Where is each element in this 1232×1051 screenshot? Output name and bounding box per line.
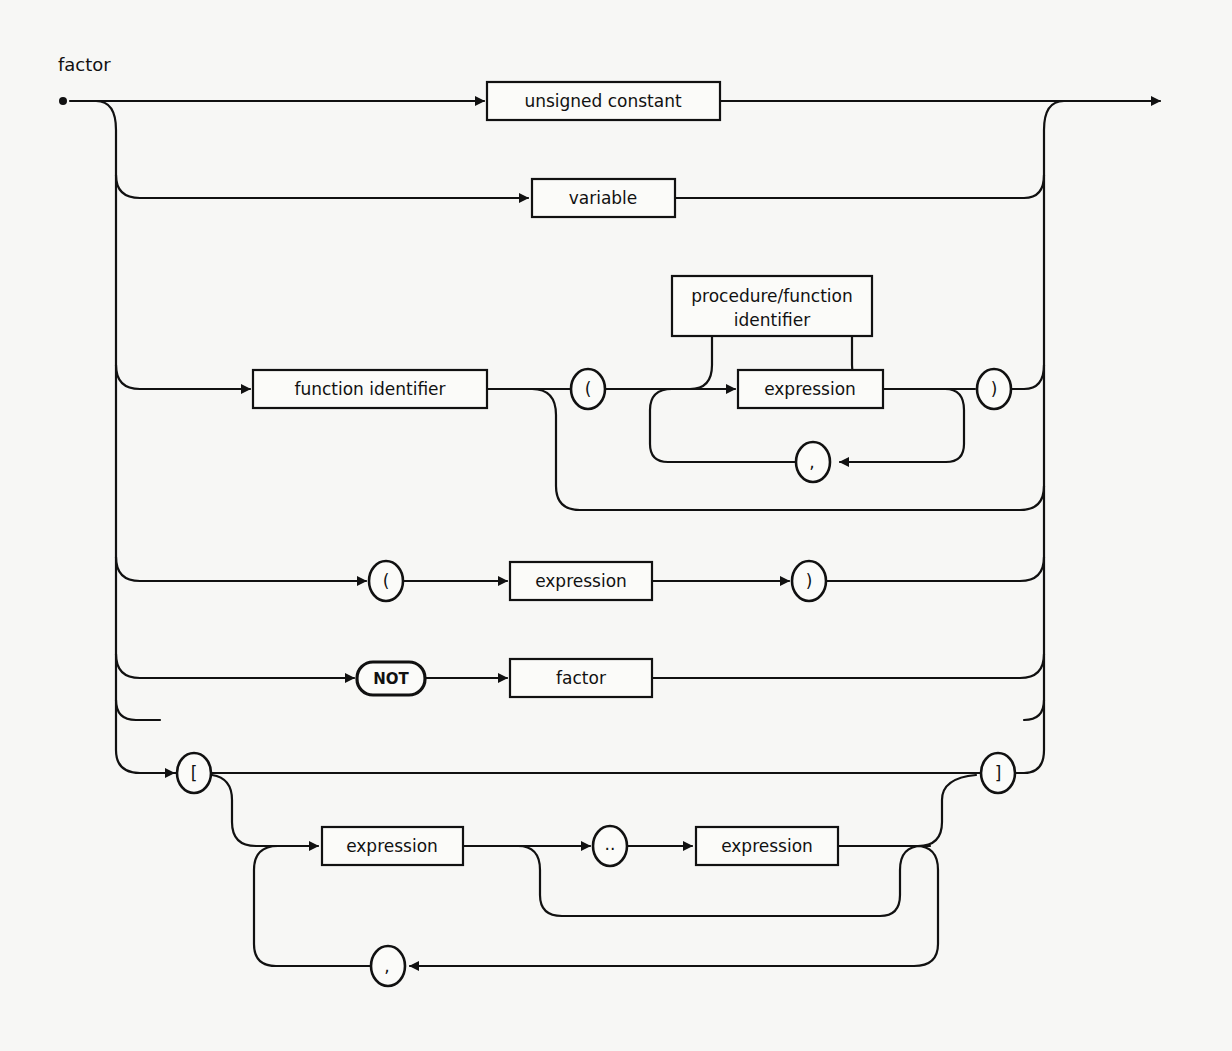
- path-to-function-identifier: [116, 365, 250, 389]
- not-terminal: NOT: [357, 662, 425, 695]
- path-from-rparen-call: [1011, 365, 1044, 389]
- range-terminal: ..: [593, 826, 627, 866]
- svg-text:expression: expression: [721, 836, 813, 856]
- comma-call-terminal: ,: [796, 442, 830, 482]
- syntax-diagram-factor: factor unsigned constant variable functi…: [0, 0, 1232, 1051]
- expression-paren-node: expression: [510, 562, 652, 600]
- lparen-terminal: (: [369, 561, 403, 601]
- svg-text:expression: expression: [535, 571, 627, 591]
- path-from-rparen: [826, 557, 1044, 581]
- path-to-variable: [116, 175, 528, 198]
- rbracket-terminal: ]: [981, 753, 1015, 793]
- left-trunk-bottom: [116, 700, 176, 773]
- expression-set-high-node: expression: [696, 827, 838, 865]
- path-to-expression-set-low: [212, 775, 318, 846]
- set-comma-loop-back: [410, 846, 938, 966]
- svg-text:): ): [806, 571, 813, 591]
- svg-text:variable: variable: [569, 188, 638, 208]
- svg-text:identifier: identifier: [734, 310, 810, 330]
- variable-node: variable: [532, 179, 675, 217]
- svg-text:factor: factor: [556, 668, 606, 688]
- right-trunk: [1024, 101, 1064, 720]
- expression-args-node: expression: [738, 370, 883, 408]
- svg-text:(: (: [383, 571, 390, 591]
- comma-set-terminal: ,: [371, 946, 405, 986]
- svg-text:expression: expression: [346, 836, 438, 856]
- path-from-factor: [652, 654, 1044, 678]
- left-trunk: [96, 101, 160, 720]
- svg-text:unsigned constant: unsigned constant: [524, 91, 682, 111]
- svg-text:[: [: [191, 763, 198, 783]
- factor-node: factor: [510, 659, 652, 697]
- svg-text:NOT: NOT: [373, 670, 409, 688]
- expression-set-low-node: expression: [322, 827, 463, 865]
- svg-text:function identifier: function identifier: [294, 379, 445, 399]
- lparen-call-terminal: (: [571, 369, 605, 409]
- entry-dot: [59, 97, 67, 105]
- svg-text:): ): [991, 379, 998, 399]
- rparen-call-terminal: ): [977, 369, 1011, 409]
- lbracket-terminal: [: [177, 753, 211, 793]
- procedure-function-identifier-node: procedure/function identifier: [672, 276, 872, 336]
- svg-text:,: ,: [809, 452, 814, 472]
- rparen-terminal: ): [792, 561, 826, 601]
- path-up-to-proc-id: [690, 337, 712, 389]
- path-to-not: [116, 654, 354, 678]
- svg-text:..: ..: [605, 834, 616, 854]
- path-to-lparen: [116, 557, 366, 581]
- diagram-title: factor: [58, 54, 111, 75]
- svg-text:]: ]: [995, 763, 1002, 783]
- function-identifier-node: function identifier: [253, 370, 487, 408]
- svg-text:expression: expression: [764, 379, 856, 399]
- path-up-to-rbracket: [918, 775, 976, 846]
- right-trunk-bottom: [1015, 700, 1044, 773]
- svg-text:,: ,: [384, 956, 389, 976]
- svg-text:(: (: [585, 379, 592, 399]
- svg-text:procedure/function: procedure/function: [691, 286, 852, 306]
- path-from-variable: [675, 175, 1044, 198]
- unsigned-constant-node: unsigned constant: [487, 82, 720, 120]
